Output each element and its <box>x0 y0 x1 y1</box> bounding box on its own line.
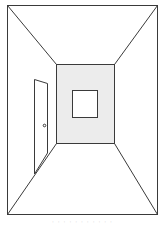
vanishing-line-top-left <box>8 6 57 65</box>
window <box>73 91 98 118</box>
figure-caption: · · · · · · · · · · · <box>0 216 165 227</box>
vanishing-line-bottom-left <box>8 144 57 215</box>
vanishing-line-top-right <box>115 6 158 65</box>
vanishing-line-bottom-right <box>115 144 158 215</box>
hallway-diagram <box>0 0 165 227</box>
